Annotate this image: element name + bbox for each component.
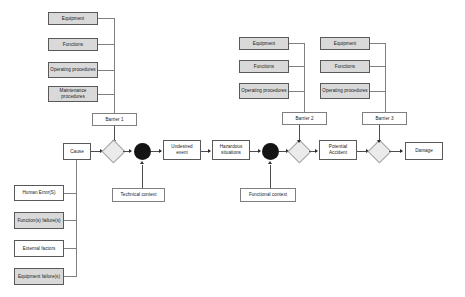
cause-label: Cause — [70, 149, 84, 155]
bus-left-group — [114, 18, 115, 114]
damage-label: Damage — [415, 148, 433, 154]
arrowhead-barrier3-to-gate3 — [377, 140, 381, 143]
right-group-box-functions-label: Functions — [335, 64, 355, 70]
hazardous-situations-label: Hazardous situations — [214, 144, 248, 155]
gate-diamond-3[interactable] — [367, 139, 391, 163]
connector-right-group-2 — [370, 66, 386, 67]
connector-left-group-2 — [98, 44, 115, 45]
connector-technical-context-to-junction1 — [142, 165, 143, 188]
potential-accident-box[interactable]: Potential Accident — [319, 140, 357, 160]
technical-context-label: Technical context — [120, 192, 156, 198]
hazardous-situations-box[interactable]: Hazardous situations — [212, 140, 250, 160]
cause-source-box-human-error-label: Human Error(S) — [22, 190, 55, 196]
left-group-box-operating-procedures[interactable]: Operating procedures — [48, 62, 98, 78]
diagram-canvas: Equipment Functions Operating procedures… — [0, 0, 465, 297]
bus-middle-group — [304, 43, 305, 113]
right-group-box-equipment-label: Equipment — [334, 41, 356, 47]
barrier-1-box[interactable]: Barrier 1 — [92, 113, 137, 126]
barrier-3-label: Barrier 3 — [375, 116, 393, 122]
cause-source-box-human-error[interactable]: Human Error(S) — [14, 185, 64, 201]
functional-context-label: Functional context — [249, 192, 287, 198]
potential-accident-label: Potential Accident — [321, 144, 355, 155]
connector-cause-source-3 — [64, 248, 77, 249]
middle-group-box-operating-procedures[interactable]: Operating procedures — [239, 83, 289, 99]
undesired-event-label: Undesired event — [165, 144, 199, 155]
barrier-1-label: Barrier 1 — [105, 117, 123, 123]
connector-right-group-3 — [370, 91, 386, 92]
right-group-box-operating-procedures-label: Operating procedures — [322, 88, 367, 94]
junction-node-2[interactable] — [262, 143, 279, 160]
arrowhead-undesired-to-hazardous — [208, 149, 211, 153]
arrowhead-hazardous-to-junction2 — [258, 149, 261, 153]
arrowhead-junction1-to-undesired-event — [159, 149, 162, 153]
left-group-box-maintenance-procedures-label: Maintenance procedures — [50, 88, 96, 99]
cause-source-box-external-factors-label: External factors — [23, 246, 56, 252]
barrier-2-box[interactable]: Barrier 2 — [282, 112, 327, 125]
barrier-3-box[interactable]: Barrier 3 — [362, 112, 407, 125]
middle-group-box-functions-label: Functions — [254, 64, 274, 70]
arrowhead-technical-context-to-junction1 — [140, 161, 144, 164]
right-group-box-functions[interactable]: Functions — [320, 60, 370, 73]
connector-cause-source-2 — [64, 220, 77, 221]
barrier-2-label: Barrier 2 — [295, 116, 313, 122]
connector-cause-source-1 — [64, 193, 77, 194]
left-group-box-equipment-label: Equipment — [62, 16, 84, 22]
arrowhead-functional-context-to-junction2 — [268, 161, 272, 164]
junction-node-1[interactable] — [134, 143, 151, 160]
bus-cause-sources — [76, 160, 77, 277]
cause-source-box-function-failures-label: Function(s) failure(s) — [17, 218, 60, 224]
left-group-box-maintenance-procedures[interactable]: Maintenance procedures — [48, 86, 98, 102]
middle-group-box-equipment[interactable]: Equipment — [239, 37, 289, 50]
connector-middle-group-2 — [289, 66, 305, 67]
left-group-box-functions-label: Functions — [63, 42, 83, 48]
arrowhead-gate1-to-junction1 — [129, 149, 132, 153]
connector-left-group-3 — [98, 70, 115, 71]
undesired-event-box[interactable]: Undesired event — [163, 140, 201, 160]
gate-diamond-1[interactable] — [101, 139, 125, 163]
left-group-box-functions[interactable]: Functions — [48, 38, 98, 51]
connector-left-group-1 — [98, 18, 115, 19]
cause-source-box-equipment-failures[interactable]: Equipment failure(s) — [14, 268, 64, 285]
cause-source-box-external-factors[interactable]: External factors — [14, 240, 64, 257]
cause-box[interactable]: Cause — [63, 143, 91, 160]
bus-right-group — [385, 43, 386, 113]
cause-source-box-equipment-failures-label: Equipment failure(s) — [18, 274, 60, 280]
middle-group-box-operating-procedures-label: Operating procedures — [241, 88, 286, 94]
cause-source-box-function-failures[interactable]: Function(s) failure(s) — [14, 212, 64, 229]
connector-left-group-4 — [98, 94, 115, 95]
connector-middle-group-3 — [289, 91, 305, 92]
arrowhead-gate3-to-damage — [400, 149, 403, 153]
connector-functional-context-to-junction2 — [270, 165, 271, 188]
technical-context-box[interactable]: Technical context — [112, 188, 165, 202]
connector-cause-source-4 — [64, 276, 77, 277]
functional-context-box[interactable]: Functional context — [240, 188, 296, 202]
right-group-box-operating-procedures[interactable]: Operating procedures — [320, 83, 370, 99]
middle-group-box-functions[interactable]: Functions — [239, 60, 289, 73]
gate-diamond-2[interactable] — [287, 139, 311, 163]
damage-box[interactable]: Damage — [405, 142, 443, 160]
arrowhead-barrier2-to-gate2 — [297, 140, 301, 143]
left-group-box-operating-procedures-label: Operating procedures — [50, 67, 95, 73]
left-group-box-equipment[interactable]: Equipment — [48, 12, 98, 25]
connector-middle-group-1 — [289, 43, 305, 44]
right-group-box-equipment[interactable]: Equipment — [320, 37, 370, 50]
connector-right-group-1 — [370, 43, 386, 44]
middle-group-box-equipment-label: Equipment — [253, 41, 275, 47]
arrowhead-gate2-to-potential-accident — [315, 149, 318, 153]
